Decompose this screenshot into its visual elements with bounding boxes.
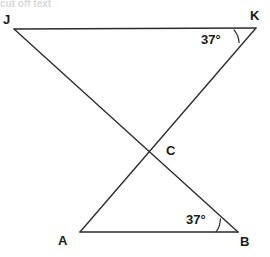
segment-ka (80, 28, 256, 232)
vertex-label-a: A (58, 234, 67, 247)
segment-jb (14, 29, 238, 232)
angle-measure-k: 37° (201, 33, 221, 46)
segment-jk (14, 28, 256, 29)
vertex-label-k: K (250, 9, 259, 22)
geometry-figure: cut off text J K A B C 37° 37° (0, 0, 270, 257)
geometry-canvas (0, 0, 270, 257)
vertex-label-j: J (3, 13, 10, 26)
angle-measure-b: 37° (186, 213, 206, 226)
vertex-label-b: B (240, 235, 249, 248)
angle-arc-k (234, 30, 239, 43)
angle-arc-b (216, 219, 220, 232)
vertex-label-c: C (166, 144, 175, 157)
